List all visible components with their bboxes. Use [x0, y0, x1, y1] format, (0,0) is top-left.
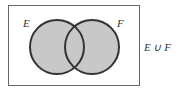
set-e-label: E [23, 18, 30, 29]
union-caption: E ∪ F [144, 42, 171, 53]
set-f-label: F [117, 18, 124, 29]
